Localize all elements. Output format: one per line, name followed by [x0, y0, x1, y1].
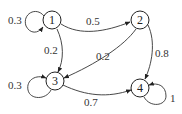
node-1-label: 1 [49, 13, 55, 27]
node-1: 1 [43, 11, 61, 29]
node-3: 3 [46, 72, 64, 90]
node-2: 2 [131, 11, 149, 29]
edge-label-1-2: 0.5 [86, 15, 100, 27]
node-4-label: 4 [137, 81, 143, 95]
markov-chain-diagram: 0.3 0.5 0.2 0.2 0.8 0.3 0.7 1 1 2 3 4 [0, 0, 182, 114]
node-3-label: 3 [52, 74, 58, 88]
edge-label-3-4: 0.7 [84, 96, 98, 108]
node-4: 4 [131, 79, 149, 97]
edge-2-to-4 [145, 25, 152, 79]
edge-1-to-3 [57, 29, 62, 72]
edge-label-2-3: 0.2 [96, 50, 110, 62]
edge-1-to-1 [25, 11, 44, 32]
edge-label-2-4: 0.8 [155, 47, 169, 59]
edge-3-to-4 [63, 85, 131, 95]
edge-label-3-3: 0.3 [8, 79, 22, 91]
edge-label-4-4: 1 [170, 92, 176, 104]
edge-label-1-1: 0.3 [8, 14, 22, 26]
edge-label-1-3: 0.2 [44, 44, 58, 56]
node-2-label: 2 [137, 13, 143, 27]
